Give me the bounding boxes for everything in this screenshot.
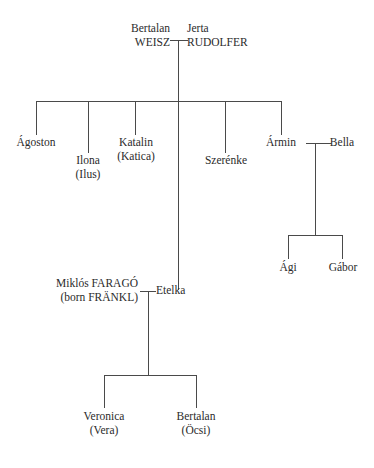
- drop-line-szerenke: [225, 101, 226, 153]
- person-armin: Ármin: [266, 136, 296, 150]
- person-veronica: Veronica (Vera): [84, 410, 125, 437]
- sibling-bar-armin-children: [288, 235, 343, 236]
- person-agi: Ági: [279, 261, 296, 275]
- person-name-line-1: Gábor: [329, 261, 358, 275]
- person-agoston: Ágoston: [17, 136, 56, 150]
- descent-line-generation-1: [178, 40, 179, 290]
- person-name-line-2: (Vera): [84, 424, 125, 438]
- marriage-link-father-mother: [170, 40, 188, 41]
- person-katalin: Katalin (Katica): [117, 136, 155, 163]
- person-name-line-1: Bella: [330, 136, 354, 150]
- person-name-line-2: (born FRÄNKL): [34, 291, 138, 305]
- person-name-line-1: Ilona: [76, 154, 101, 168]
- drop-line-armin: [281, 101, 282, 135]
- marriage-link-armin-bella: [306, 143, 332, 144]
- person-bertalan-weisz: Bertalan WEISZ: [108, 22, 170, 49]
- sibling-bar-generation-2: [36, 101, 282, 102]
- drop-line-veronica: [104, 375, 105, 408]
- person-miklos-farago: Miklós FARAGÓ (born FRÄNKL): [34, 277, 138, 304]
- person-name-line-1: Bertalan: [108, 22, 170, 36]
- person-name-line-1: Jerta: [187, 22, 277, 36]
- person-name-line-1: Miklós FARAGÓ: [34, 277, 138, 291]
- person-name-line-1: Ármin: [266, 136, 296, 150]
- person-szerenke: Szerénke: [205, 154, 247, 168]
- descent-line-armin-bella: [315, 143, 316, 235]
- person-name-line-2: RUDOLFER: [187, 36, 277, 50]
- person-name-line-2: WEISZ: [108, 36, 170, 50]
- drop-line-ilona: [88, 101, 89, 153]
- person-name-line-2: (Öcsi): [177, 424, 216, 438]
- descent-line-miklos-etelka: [148, 291, 149, 375]
- drop-line-bertalan-ocsi: [196, 375, 197, 408]
- drop-line-agoston: [36, 101, 37, 135]
- person-bella: Bella: [330, 136, 354, 150]
- person-etelka: Etelka: [156, 284, 216, 298]
- drop-line-gabor: [342, 235, 343, 259]
- sibling-bar-etelka-children: [104, 375, 196, 376]
- drop-line-agi: [288, 235, 289, 259]
- person-name-line-1: Katalin: [117, 136, 155, 150]
- person-name-line-1: Ágoston: [17, 136, 56, 150]
- person-name-line-1: Bertalan: [177, 410, 216, 424]
- person-name-line-2: (Ilus): [76, 168, 101, 182]
- person-name-line-1: Veronica: [84, 410, 125, 424]
- person-name-line-1: Ági: [279, 261, 296, 275]
- person-name-line-2: (Katica): [117, 150, 155, 164]
- drop-line-katalin: [135, 101, 136, 135]
- person-gabor: Gábor: [329, 261, 358, 275]
- person-ilona: Ilona (Ilus): [76, 154, 101, 181]
- person-name-line-1: Etelka: [156, 284, 216, 298]
- person-bertalan-ocsi: Bertalan (Öcsi): [177, 410, 216, 437]
- person-jerta-rudolfer: Jerta RUDOLFER: [187, 22, 277, 49]
- person-name-line-1: Szerénke: [205, 154, 247, 168]
- family-tree-diagram: Bertalan WEISZ Jerta RUDOLFER Ágoston Il…: [0, 0, 374, 468]
